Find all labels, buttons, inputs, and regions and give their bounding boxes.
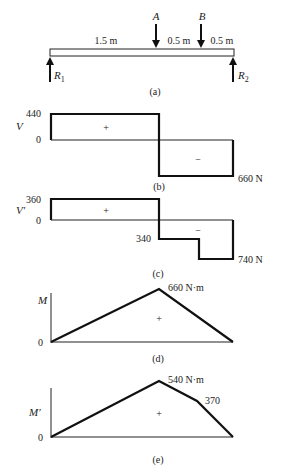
caption-c: (c) [152,268,163,280]
reaction-left-arrowhead-icon [46,57,54,65]
moment-m-sign-positive: + [156,313,162,324]
load-a-label: A [152,10,160,22]
reaction-left-label: R1 [53,69,65,84]
beam-panel: A B 1.5 m 0.5 m 0.5 m R1 R2 (a) [46,10,249,98]
span-1-label: 1.5 m [95,35,118,46]
reaction-right-arrowhead-icon [229,57,237,65]
shear-v-tick-zero: 0 [36,134,41,145]
load-a-arrowhead-icon [152,40,160,48]
span-2-label: 0.5 m [168,35,191,46]
caption-d: (d) [152,353,164,365]
caption-e: (e) [152,454,163,466]
moment-m-panel: M 0 + 660 N·m (d) [37,282,233,365]
moment-m-tick-zero: 0 [38,337,43,348]
shear-v-prime-sign-positive: + [103,205,109,216]
moment-m-prime-mid-value: 370 [205,395,220,406]
shear-v-prime-end-value: 740 N [238,254,263,265]
moment-m-peak-value: 660 N·m [168,282,204,293]
shear-v-prime-tick-zero: 0 [36,215,41,226]
shear-v-prime-tick-top: 360 [26,194,41,205]
shear-v-sign-negative: − [195,154,201,165]
shear-v-panel: 440 V 0 + − 660 N (b) [16,108,263,193]
shear-v-prime-panel: 360 V′ 0 + − 340 740 N (c) [16,194,263,280]
shear-v-prime-curve [51,199,233,259]
moment-m-prime-axis-label: M′ [28,406,41,418]
caption-a: (a) [149,86,160,98]
load-b-label: B [199,10,206,22]
load-b-arrowhead-icon [197,40,205,48]
beam-diagram-figure: A B 1.5 m 0.5 m 0.5 m R1 R2 (a) 440 V 0 … [0,0,283,474]
moment-m-prime-peak-value: 540 N·m [168,374,204,385]
shear-v-prime-sign-negative: − [195,225,201,236]
shear-v-sign-positive: + [103,122,109,133]
shear-v-tick-top: 440 [26,108,41,119]
moment-m-prime-curve [51,381,233,437]
moment-m-prime-tick-zero: 0 [38,432,43,443]
shear-v-prime-axis-label: V′ [16,204,26,216]
shear-v-curve [51,114,233,176]
moment-m-curve [51,289,233,342]
shear-v-end-value: 660 N [238,173,263,184]
span-3-label: 0.5 m [211,35,234,46]
moment-m-prime-panel: M′ 0 + 540 N·m 370 (e) [28,374,233,466]
shear-v-axis-label: V [16,120,24,132]
caption-b: (b) [153,181,165,193]
beam-body [50,49,234,56]
moment-m-prime-sign-positive: + [156,408,162,419]
shear-v-prime-mid-value: 340 [136,233,151,244]
reaction-right-label: R2 [237,69,249,84]
moment-m-axis-label: M [37,294,48,306]
